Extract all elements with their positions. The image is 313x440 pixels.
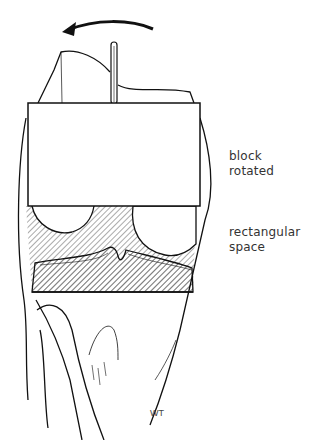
block-label-line2: rotated: [229, 164, 274, 179]
space-label-line1: rectangular: [229, 225, 300, 240]
rectangular-space-label: rectangular space: [229, 225, 300, 255]
cutting-block: [28, 103, 200, 206]
alignment-pin: [111, 42, 117, 104]
rectangular-space-region: [26, 206, 196, 292]
rotation-arrow-icon: [62, 22, 153, 36]
space-label-line2: space: [229, 240, 300, 255]
knee-illustration: [0, 0, 313, 440]
block-rotated-label: block rotated: [229, 149, 274, 179]
block-label-line1: block: [229, 149, 274, 164]
artist-signature: WT: [150, 408, 164, 418]
